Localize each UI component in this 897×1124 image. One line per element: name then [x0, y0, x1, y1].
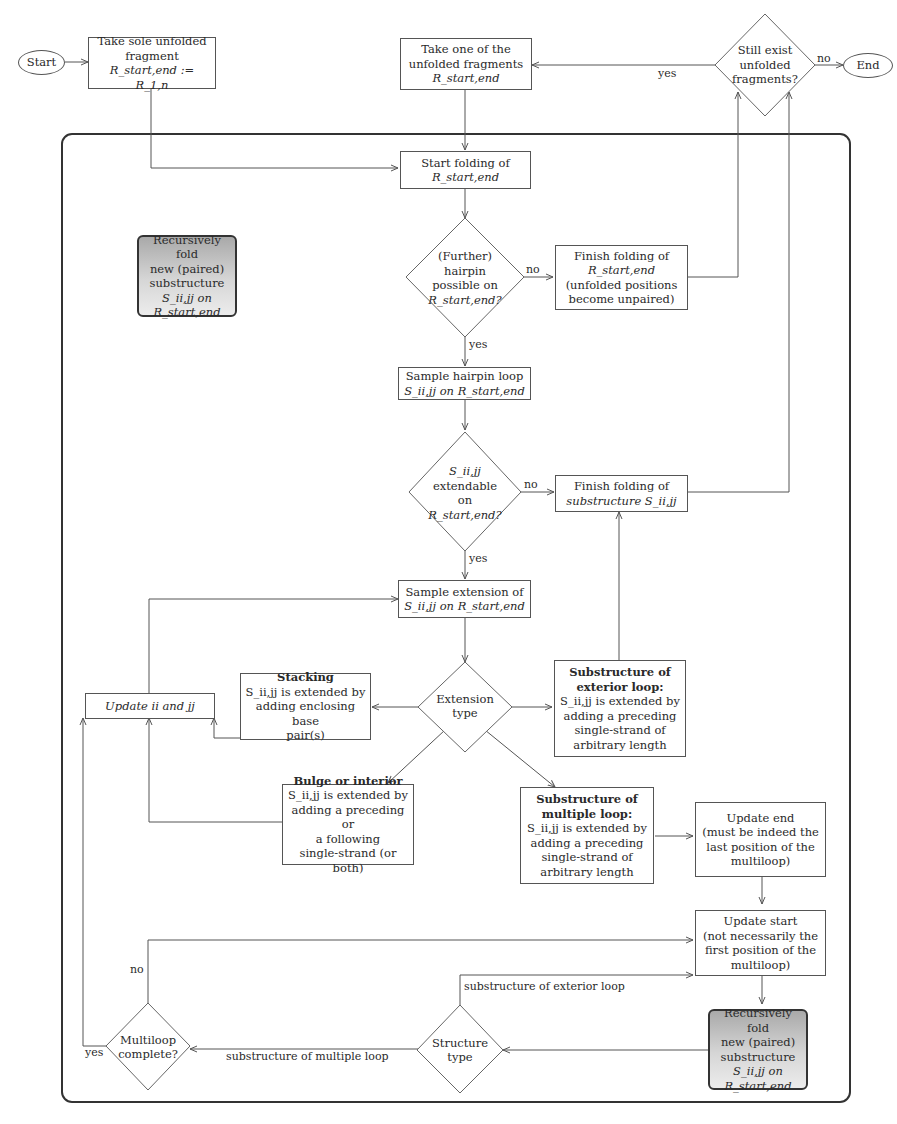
- title: multiple loop:: [542, 807, 632, 822]
- line: (not necessarily the: [703, 929, 818, 944]
- line: Take one of the: [421, 42, 511, 57]
- math-line: R_start,end: [588, 263, 655, 278]
- edge-label-yes-ext: yes: [469, 552, 487, 565]
- line: multiloop): [731, 958, 791, 973]
- line: a following: [316, 832, 380, 847]
- edge-label-yes-top: yes: [658, 67, 676, 80]
- take-one-fragment-box: Take one of the unfolded fragments R_sta…: [400, 38, 532, 90]
- line: S_ii,jj is extended by: [560, 694, 680, 709]
- math-line: S_ii,jj on R_start,end: [404, 384, 525, 399]
- exterior-loop-box: Substructure of exterior loop: S_ii,jj i…: [554, 660, 686, 757]
- math-line: S_ii,jj on: [733, 1064, 783, 1079]
- line: fragment: [125, 49, 179, 64]
- line: possible on: [432, 278, 498, 293]
- end-label: End: [856, 58, 879, 73]
- structure-type-text: Structure type: [425, 1034, 495, 1066]
- line: arbitrary length: [573, 738, 666, 753]
- start-folding-box: Start folding of R_start,end: [400, 151, 531, 189]
- math-line: R_start,end?: [428, 293, 501, 308]
- line: Sample extension of: [405, 585, 523, 600]
- line: unfolded: [739, 58, 790, 73]
- line: type: [452, 706, 477, 721]
- line: first position of the: [705, 943, 816, 958]
- line: single-strand of: [541, 850, 632, 865]
- math-line: R_start,end := R_1,n: [93, 63, 211, 92]
- edge-label-no-hairpin: no: [526, 263, 540, 276]
- recursive-fold-legend-box: Recursively fold new (paired) substructu…: [137, 235, 237, 317]
- line: multiloop): [731, 854, 791, 869]
- line: hairpin: [444, 264, 486, 279]
- sample-hairpin-box: Sample hairpin loop S_ii,jj on R_start,e…: [398, 367, 531, 400]
- line: S_ii,jj is extended by: [246, 685, 366, 700]
- update-start-box: Update start (not necessarily the first …: [695, 910, 826, 976]
- math-line: R_start,end: [432, 170, 499, 185]
- update-end-box: Update end (must be indeed the last posi…: [695, 802, 826, 877]
- extension-type-text: Extension type: [425, 690, 505, 722]
- line: pair(s): [286, 728, 324, 743]
- line: arbitrary length: [540, 865, 633, 880]
- line: single-strand of: [574, 723, 665, 738]
- line: last position of the: [706, 840, 815, 855]
- line: Still exist: [738, 43, 793, 58]
- start-terminal: Start: [18, 50, 65, 75]
- line: adding a preceding or: [287, 803, 409, 832]
- line: Update start: [724, 914, 798, 929]
- title: exterior loop:: [577, 680, 664, 695]
- still-exist-text: Still exist unfolded fragments?: [725, 40, 805, 90]
- line: Sample hairpin loop: [406, 369, 524, 384]
- line: on: [458, 493, 472, 508]
- finish-folding-fragment-box: Finish folding of R_start,end (unfolded …: [555, 245, 688, 310]
- multiple-loop-box: Substructure of multiple loop: S_ii,jj i…: [520, 787, 654, 884]
- edge-label-substructure-multiple: substructure of multiple loop: [226, 1050, 389, 1063]
- finish-substructure-box: Finish folding of substructure S_ii,jj: [555, 475, 688, 512]
- line: (must be indeed the: [702, 825, 819, 840]
- line: S_ii,jj is extended by: [288, 788, 408, 803]
- line: adding enclosing base: [245, 699, 366, 728]
- line: fragments?: [732, 72, 798, 87]
- line: adding a preceding: [564, 709, 677, 724]
- update-ii-jj-box: Update ii and jj: [85, 693, 215, 719]
- math-line: R_start,end: [432, 71, 499, 86]
- take-sole-fragment-box: Take sole unfolded fragment R_start,end …: [88, 37, 216, 89]
- line: Take sole unfolded: [97, 34, 206, 49]
- line: extendable: [433, 479, 497, 494]
- math-line: R_start,end: [724, 1079, 791, 1094]
- multiloop-complete-text: Multiloop complete?: [110, 1031, 186, 1063]
- line: (Further): [438, 249, 492, 264]
- line: new (paired): [150, 262, 224, 277]
- math-line: S_ii,jj: [449, 464, 481, 479]
- line: single-strand (or both): [287, 846, 409, 875]
- bulge-interior-box: Bulge or interior S_ii,jj is extended by…: [282, 784, 414, 865]
- line: Recursively fold: [714, 1006, 802, 1035]
- line: (unfolded positions: [566, 278, 678, 293]
- end-terminal: End: [843, 53, 893, 78]
- line: Extension: [436, 692, 494, 707]
- math-line: S_ii,jj on: [162, 291, 212, 306]
- line: Update ii and jj: [105, 699, 195, 714]
- edge-label-substructure-exterior: substructure of exterior loop: [464, 980, 625, 993]
- edge-label-no-top: no: [817, 52, 831, 65]
- line: new (paired): [721, 1035, 795, 1050]
- line: Finish folding of: [574, 249, 669, 264]
- line: Recursively fold: [143, 233, 231, 262]
- recursive-fold-box: Recursively fold new (paired) substructu…: [708, 1009, 808, 1090]
- math-line: substructure S_ii,jj: [566, 494, 676, 509]
- math-line: S_ii,jj on R_start,end: [404, 599, 525, 614]
- math-line: R_start,end: [153, 305, 220, 320]
- line: unfolded fragments: [409, 57, 523, 72]
- sample-extension-box: Sample extension of S_ii,jj on R_start,e…: [398, 580, 531, 618]
- line: Multiloop: [120, 1033, 176, 1048]
- extendable-text: S_ii,jj extendable on R_start,end?: [420, 462, 510, 524]
- line: Update end: [727, 811, 795, 826]
- line: S_ii,jj is extended by: [527, 821, 647, 836]
- start-label: Start: [27, 55, 56, 70]
- stacking-box: Stacking S_ii,jj is extended by adding e…: [240, 673, 371, 740]
- line: type: [447, 1050, 472, 1065]
- line: adding a preceding: [531, 836, 644, 851]
- line: become unpaired): [569, 292, 675, 307]
- line: Finish folding of: [574, 479, 669, 494]
- math-line: R_start,end?: [428, 508, 501, 523]
- line: Structure: [432, 1036, 488, 1051]
- line: substructure: [721, 1050, 796, 1065]
- edge-label-no-multi: no: [130, 963, 144, 976]
